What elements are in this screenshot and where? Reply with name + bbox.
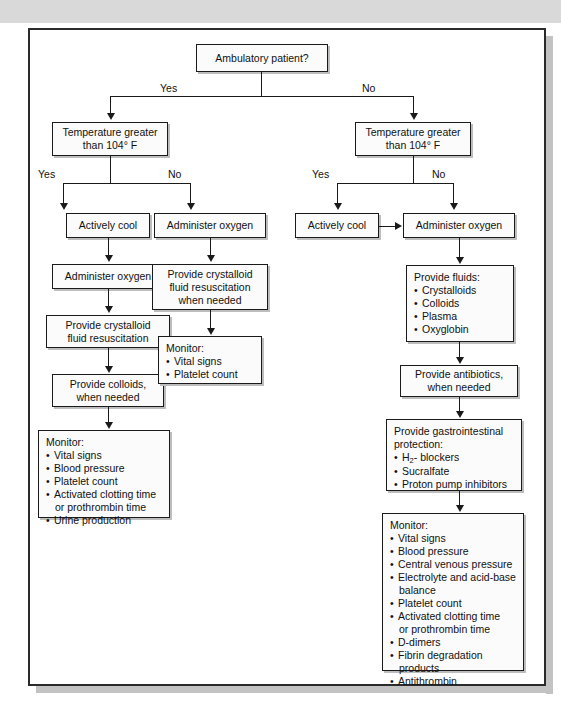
arrow-a2	[105, 306, 113, 313]
node-d-antibiotics[interactable]: Provide antibiotics, when needed	[400, 365, 518, 397]
node-d-monitor[interactable]: Monitor: Vital signs Blood pressure Cent…	[382, 513, 524, 671]
connector-temp-left-yes-drop	[63, 183, 64, 205]
node-label: Administer oxygen	[65, 270, 151, 283]
list-item-text: D-dimers	[398, 636, 441, 648]
arrow-root-left	[107, 113, 115, 120]
list-item: Crystalloids	[414, 284, 507, 297]
list-item-text: Activated clotting time	[398, 610, 500, 622]
list-item-text-post: - blockers	[414, 451, 460, 463]
node-label-wrap: Provide crystalloid fluid resuscitation	[65, 319, 150, 345]
node-a-crystalloid[interactable]: Provide crystalloid fluid resuscitation	[46, 315, 170, 348]
node-label: Ambulatory patient?	[215, 52, 308, 65]
connector-a3	[108, 348, 109, 367]
node-label-line2: when needed	[76, 391, 139, 403]
node-b-crystalloid[interactable]: Provide crystalloid fluid resuscitation …	[152, 264, 268, 310]
connector-d1	[459, 238, 460, 259]
gi-list: H2- blockers Sucralfate Proton pump inhi…	[394, 451, 515, 491]
connector-root-split	[110, 96, 413, 97]
list-item-text: Central venous pressure	[398, 558, 512, 570]
monitor-title: Monitor:	[46, 436, 163, 449]
node-a-administer-oxygen[interactable]: Administer oxygen	[52, 264, 164, 289]
list-item-text: Plasma	[422, 310, 457, 322]
node-b-administer-oxygen[interactable]: Administer oxygen	[154, 213, 266, 238]
edge-label-left-no: No	[168, 168, 181, 180]
node-d-provide-fluids[interactable]: Provide fluids: Crystalloids Colloids Pl…	[406, 265, 514, 342]
edge-label-root-yes: Yes	[160, 82, 177, 94]
monitor-list: Vital signs Blood pressure Central venou…	[390, 532, 517, 688]
node-ambulatory-patient[interactable]: Ambulatory patient?	[196, 44, 328, 72]
node-label-line3: when needed	[178, 294, 241, 306]
fluids-title: Provide fluids:	[414, 271, 507, 284]
list-item: Platelet count	[390, 597, 517, 610]
connector-temp-right-stem	[413, 156, 414, 183]
list-item: Fibrin degradationproducts	[390, 649, 517, 675]
node-temperature-right[interactable]: Temperature greater than 104° F	[355, 122, 471, 156]
connector-root-stem	[261, 72, 262, 96]
node-label-line2: than 104° F	[386, 139, 440, 151]
arrow-d4	[456, 505, 464, 512]
monitor-list: Vital signs Blood pressure Platelet coun…	[46, 449, 163, 527]
list-item-text: Vital signs	[174, 355, 222, 367]
edge-label-left-yes: Yes	[38, 168, 55, 180]
list-item: Platelet count	[46, 475, 163, 488]
gi-title-line1: Provide gastrointestinal	[394, 425, 515, 438]
node-label: Actively cool	[308, 219, 366, 232]
node-label-line1: Provide colloids,	[70, 378, 146, 390]
arrow-temp-right-no	[450, 203, 458, 210]
node-a-colloids[interactable]: Provide colloids, when needed	[52, 374, 164, 407]
arrow-a4	[105, 422, 113, 429]
connector-temp-left-split	[63, 183, 190, 184]
edge-label-root-no: No	[362, 82, 375, 94]
list-item: Sucralfate	[394, 465, 515, 478]
arrow-root-right	[410, 113, 418, 120]
node-label-wrap: Provide colloids, when needed	[70, 378, 146, 404]
arrow-d1	[456, 257, 464, 264]
list-item-text: Platelet count	[174, 368, 238, 380]
node-label-wrap: Provide crystalloid fluid resuscitation …	[167, 268, 252, 307]
node-label-line1: Temperature greater	[365, 126, 460, 138]
list-item: Oxyglobin	[414, 323, 507, 336]
figure-page: Ambulatory patient? Yes No Temperature g…	[0, 0, 561, 720]
list-item: Urine production	[46, 514, 163, 527]
connector-temp-left-no-drop	[190, 183, 191, 205]
arrow-c-to-d	[395, 222, 402, 230]
list-item: Central venous pressure	[390, 558, 517, 571]
list-item: Electrolyte and acid-basebalance	[390, 571, 517, 597]
node-label: Actively cool	[79, 219, 137, 232]
list-item-text: Sucralfate	[402, 465, 449, 477]
list-item-continuation: or prothrombin time	[398, 623, 517, 636]
list-item: Antithrombin	[390, 675, 517, 688]
node-temperature-left[interactable]: Temperature greater than 104° F	[52, 122, 168, 156]
list-item-continuation: balance	[398, 584, 517, 597]
list-item-continuation: products	[398, 662, 517, 675]
arrow-temp-left-yes	[60, 203, 68, 210]
monitor-title: Monitor:	[390, 519, 517, 532]
list-item-text: Fibrin degradation	[398, 649, 483, 661]
arrow-temp-right-yes	[334, 203, 342, 210]
connector-b2	[210, 310, 211, 329]
node-c-actively-cool[interactable]: Actively cool	[295, 213, 379, 238]
list-item: Colloids	[414, 297, 507, 310]
list-item: Activated clotting timeor prothrombin ti…	[46, 488, 163, 514]
list-item: Vital signs	[166, 355, 255, 368]
arrow-b2	[207, 328, 215, 335]
arrow-d2	[456, 357, 464, 364]
list-item-text: Oxyglobin	[422, 323, 469, 335]
node-a-actively-cool[interactable]: Actively cool	[66, 213, 150, 238]
node-label-wrap: Temperature greater than 104° F	[62, 126, 157, 152]
arrow-d3	[456, 411, 464, 418]
node-d-administer-oxygen[interactable]: Administer oxygen	[403, 213, 515, 238]
arrow-a1	[105, 255, 113, 262]
flowchart-canvas: Ambulatory patient? Yes No Temperature g…	[0, 0, 561, 720]
node-b-monitor[interactable]: Monitor: Vital signs Platelet count	[158, 336, 262, 384]
node-d-gi-protection[interactable]: Provide gastrointestinal protection: H2-…	[386, 419, 522, 491]
list-item: H2- blockers	[394, 451, 515, 465]
node-a-monitor[interactable]: Monitor: Vital signs Blood pressure Plat…	[38, 430, 170, 518]
gi-title-line2: protection:	[394, 438, 515, 451]
list-item-text: Colloids	[422, 297, 459, 309]
list-item-text: Vital signs	[398, 532, 446, 544]
arrow-b1	[207, 255, 215, 262]
node-label-wrap: Provide antibiotics, when needed	[415, 368, 503, 394]
list-item: Vital signs	[46, 449, 163, 462]
subscript-2: 2	[410, 456, 414, 465]
